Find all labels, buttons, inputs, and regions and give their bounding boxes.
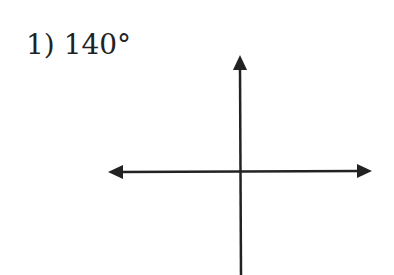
arrow-left-icon — [108, 165, 123, 179]
horizontal-axis — [120, 171, 362, 172]
axes-diagram — [0, 0, 394, 275]
arrow-right-icon — [357, 164, 372, 178]
arrow-up-icon — [233, 55, 247, 70]
